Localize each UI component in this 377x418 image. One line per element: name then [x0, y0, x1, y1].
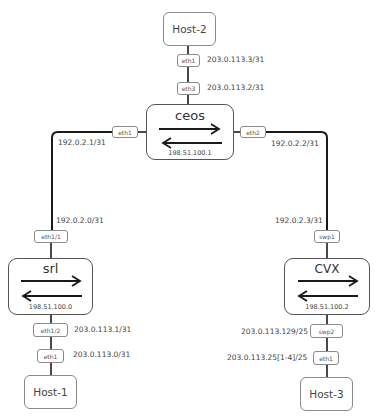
ceos-eth1-label: eth1: [118, 129, 132, 136]
srl-eth1-2-ip-label: 203.0.113.1/31: [74, 325, 131, 334]
host1-ip-label: 203.0.113.0/31: [73, 350, 130, 359]
srl-eth1-2-label: eth1/2: [41, 327, 61, 334]
ceos-loopback-label: 198.51.100.1: [147, 149, 233, 157]
host2-iface-label: eth1: [182, 57, 196, 64]
host1-eth1-port[interactable]: eth1: [37, 349, 64, 363]
srl-eth1-1-ip-label: 192.0.2.0/31: [56, 216, 104, 225]
cvx-swp2-ip-label: 203.0.113.129/25: [241, 327, 308, 336]
cvx-swp2-label: swp2: [319, 328, 335, 335]
host3-eth1-port[interactable]: eth1: [313, 351, 339, 365]
ceos-eth2-port[interactable]: eth2: [240, 126, 266, 138]
host3-iface-label: eth1: [319, 355, 333, 362]
host3-label: Host-3: [309, 388, 343, 400]
host2-label: Host-2: [172, 23, 206, 35]
cvx-swp1-port[interactable]: swp1: [314, 230, 340, 243]
ceos-router-node[interactable]: ceos 198.51.100.1: [146, 104, 234, 160]
cvx-swp1-label: swp1: [319, 233, 335, 240]
host1-label: Host-1: [33, 386, 67, 398]
host2-ip-label: 203.0.113.3/31: [207, 55, 264, 64]
host3-ip-label: 203.0.113.25[1-4]/25: [227, 353, 307, 362]
ceos-eth3-ip-label: 203.0.113.2/31: [207, 83, 264, 92]
cvx-loopback-label: 198.51.100.2: [285, 303, 369, 311]
ceos-eth1-ip-label: 192.0.2.1/31: [58, 138, 106, 147]
ceos-eth3-port[interactable]: eth3: [177, 82, 200, 95]
host1-node[interactable]: Host-1: [24, 375, 77, 409]
cvx-swp2-port[interactable]: swp2: [310, 324, 343, 338]
ceos-eth2-ip-label: 192.0.2.2/31: [271, 139, 319, 148]
srl-router-node[interactable]: srl 198.51.100.0: [8, 258, 93, 315]
cvx-router-node[interactable]: cvx 198.51.100.2: [284, 258, 370, 315]
ceos-eth1-port[interactable]: eth1: [112, 126, 138, 138]
ceos-eth3-label: eth3: [182, 85, 196, 92]
srl-eth1-1-port[interactable]: eth1/1: [34, 230, 68, 243]
ceos-eth2-label: eth2: [246, 129, 260, 136]
cvx-swp1-ip-label: 192.0.2.3/31: [275, 216, 323, 225]
host2-eth1-port[interactable]: eth1: [177, 54, 200, 67]
srl-loopback-label: 198.51.100.0: [9, 303, 92, 311]
host3-node[interactable]: Host-3: [300, 377, 353, 411]
host2-node[interactable]: Host-2: [163, 12, 216, 46]
srl-eth1-1-label: eth1/1: [41, 233, 61, 240]
srl-eth1-2-port[interactable]: eth1/2: [33, 323, 68, 337]
host1-iface-label: eth1: [44, 353, 58, 360]
